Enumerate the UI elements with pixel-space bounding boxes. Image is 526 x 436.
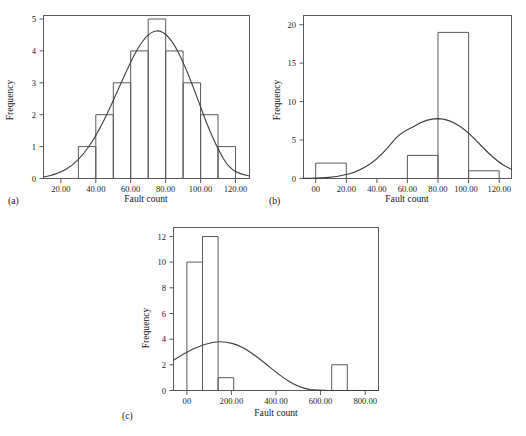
svg-text:0: 0 bbox=[32, 174, 36, 184]
panel-a-x-axis-title: Fault count bbox=[124, 193, 168, 204]
panel-a-y-ticks bbox=[40, 19, 44, 179]
panel-b: Frequency 0 5 10 15 20 bbox=[263, 0, 526, 218]
panel-a-normal-curve bbox=[44, 31, 250, 177]
panel-a-chart: Frequency 0 1 2 3 4 5 bbox=[0, 0, 263, 218]
panel-b-bars bbox=[316, 32, 500, 178]
panel-a-letter: (a) bbox=[8, 195, 19, 207]
svg-text:15: 15 bbox=[287, 58, 296, 68]
panel-b-captions: Fault count (b) bbox=[263, 188, 526, 216]
panel-b-chart: Frequency 0 5 10 15 20 bbox=[263, 0, 526, 218]
panel-a-y-ticklabels: 0 1 2 3 4 5 bbox=[32, 14, 37, 184]
panel-c-y-axis-title: Frequency bbox=[140, 308, 151, 349]
panel-c-x-axis-title: Fault count bbox=[254, 407, 298, 418]
panel-b-letter: (b) bbox=[269, 195, 280, 207]
panel-c-x-ticks bbox=[187, 391, 365, 396]
panel-b-y-ticklabels: 0 5 10 15 20 bbox=[287, 20, 296, 184]
panel-b-plot-frame bbox=[304, 16, 512, 179]
svg-text:6: 6 bbox=[162, 309, 167, 319]
panel-a-x-ticks bbox=[61, 179, 236, 184]
svg-text:10: 10 bbox=[157, 257, 166, 267]
panel-c-y-ticklabels: 0 2 4 6 8 10 12 bbox=[157, 232, 166, 396]
panel-a: Frequency 0 1 2 3 4 5 bbox=[0, 0, 263, 218]
svg-text:5: 5 bbox=[32, 14, 36, 24]
svg-text:0: 0 bbox=[162, 386, 166, 396]
svg-text:8: 8 bbox=[162, 283, 166, 293]
panel-b-x-axis-title: Fault count bbox=[385, 193, 429, 204]
panel-b-y-ticks bbox=[300, 25, 304, 179]
panel-a-bars bbox=[78, 19, 235, 179]
panel-b-y-axis-title: Frequency bbox=[271, 80, 282, 121]
svg-text:4: 4 bbox=[32, 46, 37, 56]
svg-text:3: 3 bbox=[32, 78, 36, 88]
svg-text:1: 1 bbox=[32, 142, 36, 152]
panel-a-plot-frame bbox=[44, 16, 250, 179]
panel-c-y-ticks bbox=[170, 237, 174, 391]
panel-b-x-ticks bbox=[316, 179, 500, 184]
panel-c-letter: (c) bbox=[122, 410, 133, 422]
svg-text:0: 0 bbox=[292, 174, 296, 184]
panel-c-bars bbox=[187, 237, 347, 391]
svg-text:10: 10 bbox=[287, 97, 296, 107]
panel-a-y-axis-title: Frequency bbox=[4, 80, 15, 121]
panel-a-captions: Fault count (a) bbox=[0, 188, 263, 216]
figure-three-histograms: Frequency 0 1 2 3 4 5 bbox=[0, 0, 526, 436]
panel-c: Frequency 0 2 4 6 8 10 12 bbox=[120, 218, 410, 436]
svg-text:4: 4 bbox=[162, 334, 167, 344]
panel-c-captions: Fault count (c) bbox=[120, 400, 410, 430]
svg-text:2: 2 bbox=[32, 110, 36, 120]
svg-text:20: 20 bbox=[287, 20, 296, 30]
svg-text:5: 5 bbox=[292, 135, 296, 145]
svg-text:12: 12 bbox=[157, 232, 166, 242]
svg-text:2: 2 bbox=[162, 360, 166, 370]
